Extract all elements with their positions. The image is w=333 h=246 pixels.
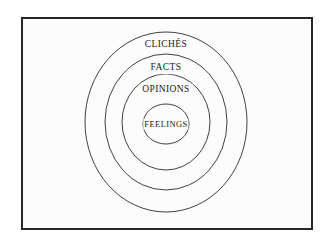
ring-label-cliches: CLICHÉS bbox=[142, 39, 190, 51]
ring-label-facts: FACTS bbox=[148, 62, 185, 74]
ring-label-feelings: FEELINGS bbox=[143, 119, 188, 130]
figure-canvas: CLICHÉS FACTS OPINIONS FEELINGS bbox=[0, 0, 333, 246]
ring-label-opinions: OPINIONS bbox=[139, 84, 193, 96]
